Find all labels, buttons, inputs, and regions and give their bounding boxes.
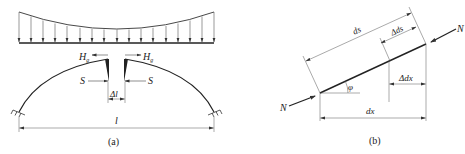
- caption-a: (a): [108, 136, 119, 148]
- delta-dx-label: Δdx: [398, 73, 413, 83]
- figure-b: N N ds Δds φ Δdx dx (b): [279, 7, 465, 147]
- hg-left-label: Hg: [78, 51, 89, 63]
- delta-ds-label: Δds: [388, 23, 405, 38]
- figure-a: Hg Hg S S Δl l (a): [11, 12, 222, 148]
- n-left-label: N: [279, 102, 288, 113]
- ds-label: ds: [351, 24, 363, 37]
- arch: [19, 59, 214, 112]
- span-label: l: [115, 115, 118, 126]
- s-left-label: S: [80, 75, 85, 86]
- figure-canvas: Hg Hg S S Δl l (a) N N: [0, 0, 465, 154]
- n-right-label: N: [456, 23, 465, 34]
- s-right-label: S: [148, 75, 153, 86]
- fixed-support-left: [11, 110, 25, 117]
- inclined-element: [320, 44, 426, 93]
- crown-wedge-left: [105, 59, 109, 82]
- phi-label: φ: [348, 82, 353, 92]
- distributed-load: [19, 12, 214, 43]
- n-left-arrow: [289, 96, 315, 106]
- delta-l-label: Δl: [109, 89, 118, 99]
- fixed-support-right: [208, 110, 222, 117]
- dx-label: dx: [366, 106, 375, 116]
- caption-b: (b): [369, 135, 381, 147]
- n-right-arrow: [431, 29, 456, 42]
- hg-right-label: Hg: [142, 51, 153, 63]
- crown-wedge-right: [124, 59, 128, 82]
